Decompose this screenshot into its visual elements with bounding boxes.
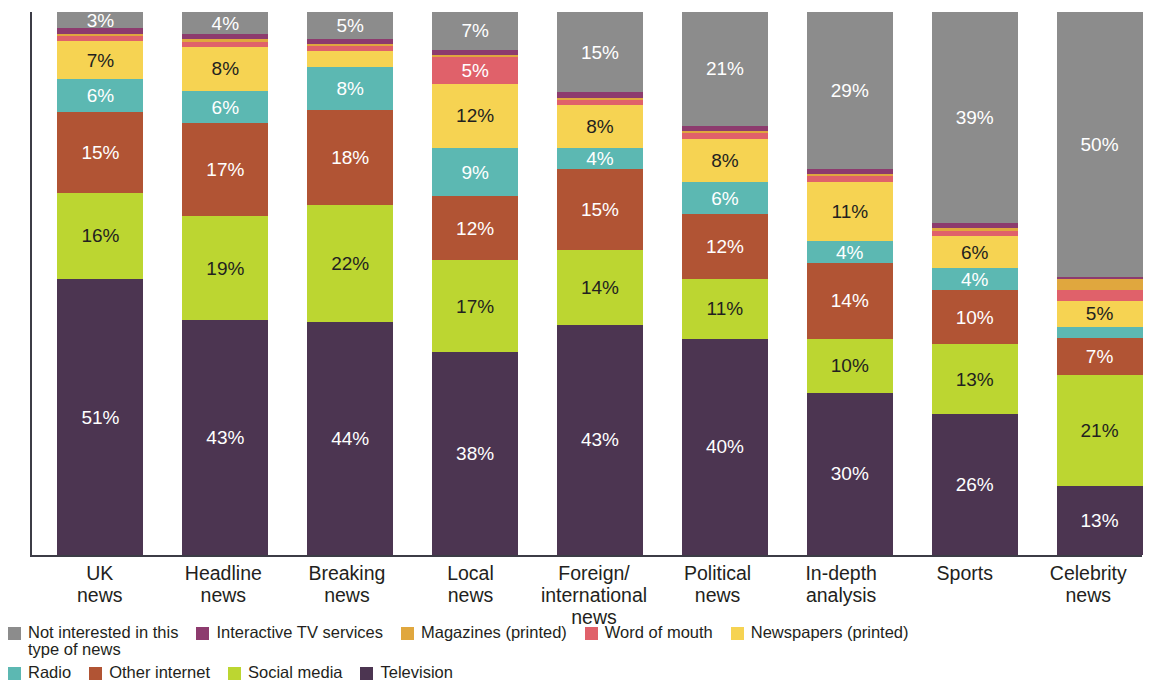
bar-segment[interactable]: 15% xyxy=(57,112,143,193)
segment-value-label: 5% xyxy=(461,61,488,80)
bar-segment[interactable]: 6% xyxy=(932,236,1018,268)
bar-segment[interactable]: 8% xyxy=(557,105,643,148)
bar-segment[interactable]: 10% xyxy=(807,339,893,393)
bar-segment[interactable]: 6% xyxy=(682,182,768,214)
segment-value-label: 6% xyxy=(961,243,988,262)
legend-label: Magazines (printed) xyxy=(421,624,567,641)
bar-segment[interactable]: 12% xyxy=(682,214,768,279)
bar-segment[interactable]: 7% xyxy=(432,12,518,49)
bar-segment[interactable]: 15% xyxy=(557,169,643,249)
bar-segment[interactable]: 17% xyxy=(432,260,518,351)
bar-segment[interactable]: 9% xyxy=(432,148,518,196)
bar-segment[interactable]: 12% xyxy=(432,84,518,148)
bar-segment[interactable]: 30% xyxy=(807,393,893,555)
legend-item[interactable]: Other internet xyxy=(89,664,210,681)
legend-item[interactable]: Social media xyxy=(228,664,342,681)
legend-item[interactable]: Radio xyxy=(8,664,71,681)
bar-segment[interactable]: 6% xyxy=(57,79,143,111)
legend-item[interactable]: Interactive TV services xyxy=(196,624,383,641)
legend-swatch-icon xyxy=(401,627,414,640)
legend-label: Newspapers (printed) xyxy=(751,624,909,641)
bar-segment[interactable]: 16% xyxy=(57,193,143,280)
stacked-bar[interactable]: 7%5%12%9%12%17%38% xyxy=(432,12,518,555)
segment-value-label: 12% xyxy=(456,219,494,238)
bar-segment[interactable]: 21% xyxy=(1057,375,1143,486)
bar-segment[interactable] xyxy=(1057,327,1143,338)
category-label: Sports xyxy=(903,562,1027,628)
bar-segment[interactable]: 6% xyxy=(182,91,268,124)
bar-segment[interactable]: 10% xyxy=(932,290,1018,344)
bar-segment[interactable]: 15% xyxy=(557,12,643,92)
bar-segment[interactable]: 11% xyxy=(682,279,768,338)
bar-slot: 29%11%4%14%10%30% xyxy=(787,12,912,555)
bar-slot: 50%5%7%21%13% xyxy=(1037,12,1162,555)
bar-segment[interactable]: 5% xyxy=(307,12,393,39)
bar-segment[interactable]: 14% xyxy=(807,263,893,339)
bar-segment[interactable]: 8% xyxy=(182,47,268,91)
bar-segment[interactable]: 38% xyxy=(432,352,518,555)
segment-value-label: 21% xyxy=(706,59,744,78)
bar-segment[interactable]: 43% xyxy=(557,325,643,555)
legend-item[interactable]: Newspapers (printed) xyxy=(731,624,909,641)
legend-item[interactable]: Television xyxy=(360,664,452,681)
legend-swatch-icon xyxy=(731,627,744,640)
stacked-bar[interactable]: 4%8%6%17%19%43% xyxy=(182,12,268,555)
segment-value-label: 11% xyxy=(707,299,744,318)
segment-value-label: 19% xyxy=(206,259,244,278)
bar-segment[interactable]: 4% xyxy=(807,241,893,263)
bar-segment[interactable]: 17% xyxy=(182,123,268,216)
stacked-bar[interactable]: 50%5%7%21%13% xyxy=(1057,12,1143,555)
bar-segment[interactable]: 19% xyxy=(182,216,268,320)
bar-segment[interactable]: 7% xyxy=(57,41,143,79)
bar-segment[interactable] xyxy=(307,51,393,67)
category-label: Celebrity news xyxy=(1027,562,1151,628)
bar-segment[interactable]: 13% xyxy=(932,344,1018,414)
stacked-bar[interactable]: 21%8%6%12%11%40% xyxy=(682,12,768,555)
bar-segment[interactable]: 7% xyxy=(1057,338,1143,375)
chart-legend: Not interested in this type of newsInter… xyxy=(8,624,1158,681)
legend-item[interactable]: Magazines (printed) xyxy=(401,624,567,641)
stacked-bar[interactable]: 15%8%4%15%14%43% xyxy=(557,12,643,555)
bar-segment[interactable]: 11% xyxy=(807,182,893,241)
bar-segment[interactable]: 4% xyxy=(182,12,268,34)
bar-segment[interactable]: 40% xyxy=(682,339,768,555)
bar-segment[interactable]: 51% xyxy=(57,279,143,555)
stacked-bar[interactable]: 39%6%4%10%13%26% xyxy=(932,12,1018,555)
legend-item[interactable]: Not interested in this type of news xyxy=(8,624,178,658)
bar-segment[interactable]: 43% xyxy=(182,320,268,555)
segment-value-label: 29% xyxy=(831,81,869,100)
segment-value-label: 18% xyxy=(331,148,369,167)
bar-segment[interactable] xyxy=(1057,279,1143,290)
category-label: Political news xyxy=(656,562,780,628)
bar-segment[interactable]: 14% xyxy=(557,250,643,325)
legend-swatch-icon xyxy=(228,667,241,680)
bar-segment[interactable]: 5% xyxy=(1057,301,1143,328)
bar-segment[interactable] xyxy=(1057,290,1143,301)
bar-segment[interactable]: 29% xyxy=(807,12,893,169)
x-axis-line xyxy=(30,555,1142,557)
stacked-bar[interactable]: 3%7%6%15%16%51% xyxy=(57,12,143,555)
stacked-bar[interactable]: 29%11%4%14%10%30% xyxy=(807,12,893,555)
bar-segment[interactable]: 26% xyxy=(932,414,1018,555)
bar-segment[interactable]: 8% xyxy=(682,139,768,182)
bar-segment[interactable]: 12% xyxy=(432,196,518,260)
stacked-bar[interactable]: 5%8%18%22%44% xyxy=(307,12,393,555)
bar-segment[interactable]: 8% xyxy=(307,67,393,109)
x-axis-category-labels: UK newsHeadline newsBreaking newsLocal n… xyxy=(38,562,1150,628)
segment-value-label: 6% xyxy=(87,86,114,105)
bar-segment[interactable]: 18% xyxy=(307,110,393,205)
segment-value-label: 22% xyxy=(331,254,369,273)
bar-segment[interactable]: 39% xyxy=(932,12,1018,223)
bar-segment[interactable]: 4% xyxy=(557,148,643,169)
bar-segment[interactable]: 21% xyxy=(682,12,768,126)
segment-value-label: 6% xyxy=(212,98,239,117)
bar-segment[interactable]: 3% xyxy=(57,12,143,28)
bar-segment[interactable]: 50% xyxy=(1057,12,1143,277)
bar-segment[interactable]: 4% xyxy=(932,268,1018,290)
legend-item[interactable]: Word of mouth xyxy=(585,624,713,641)
bar-segment[interactable]: 44% xyxy=(307,322,393,555)
segment-value-label: 4% xyxy=(961,270,988,289)
bar-segment[interactable]: 22% xyxy=(307,205,393,322)
bar-segment[interactable]: 13% xyxy=(1057,486,1143,555)
bar-segment[interactable]: 5% xyxy=(432,57,518,84)
